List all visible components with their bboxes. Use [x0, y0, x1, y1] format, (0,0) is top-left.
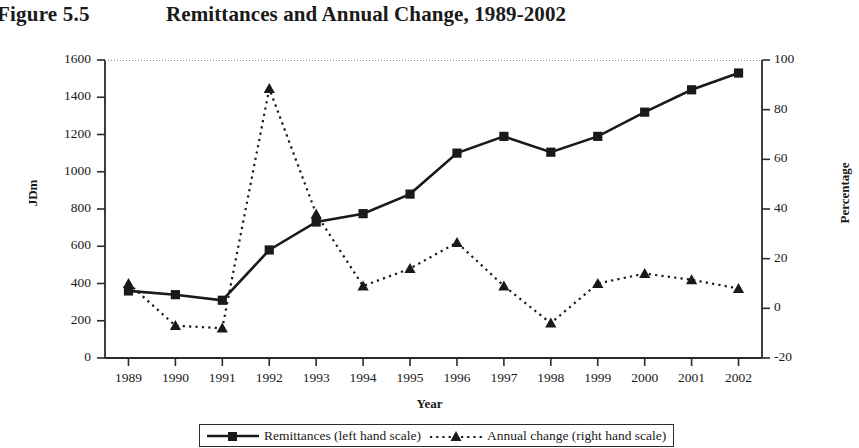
y-left-tick-label: 1000	[45, 163, 91, 179]
y-right-tick-label: -20	[774, 349, 820, 365]
y-left-tick-label: 0	[45, 349, 91, 365]
series-remittances	[124, 68, 743, 304]
figure-container: Figure 5.5 Remittances and Annual Change…	[0, 0, 859, 448]
data-point-marker	[404, 263, 415, 273]
axis-frame	[105, 60, 762, 358]
y-right-tick-label: 0	[774, 299, 820, 315]
data-point-marker	[312, 217, 321, 226]
x-tick-label: 2002	[711, 370, 767, 386]
series-line	[129, 73, 739, 300]
y-left-tick-label: 400	[45, 275, 91, 291]
data-point-marker	[734, 68, 743, 77]
data-point-marker	[265, 245, 274, 254]
data-point-marker	[640, 108, 649, 117]
series-annual-change	[123, 83, 744, 333]
data-point-marker	[264, 83, 275, 93]
y-right-tick-label: 20	[774, 250, 820, 266]
y-right-tick-label: 60	[774, 150, 820, 166]
y-right-tick-label: 40	[774, 200, 820, 216]
y-axis-left-title: JDm	[25, 153, 41, 233]
y-left-tick-label: 800	[45, 200, 91, 216]
y-axis-right-ticks	[762, 60, 770, 358]
y-left-tick-label: 600	[45, 237, 91, 253]
data-point-marker	[687, 85, 696, 94]
y-right-tick-label: 100	[774, 51, 820, 67]
data-point-marker	[451, 237, 462, 247]
legend-label-annual-change: Annual change (right hand scale)	[487, 429, 666, 443]
series-line	[129, 89, 739, 329]
data-point-marker	[733, 283, 744, 293]
data-point-marker	[124, 286, 133, 295]
square-marker-icon	[207, 430, 259, 442]
data-point-marker	[359, 209, 368, 218]
x-axis-title: Year	[0, 396, 859, 412]
legend-item-remittances: Remittances (left hand scale)	[207, 429, 421, 443]
x-axis-ticks	[128, 358, 738, 366]
data-point-marker	[546, 148, 555, 157]
chart-legend: Remittances (left hand scale) Annual cha…	[199, 424, 674, 447]
data-point-marker	[217, 323, 228, 333]
triangle-marker-icon	[430, 430, 482, 442]
data-point-marker	[592, 278, 603, 288]
y-axis-left-ticks	[97, 60, 105, 358]
data-point-marker	[593, 132, 602, 141]
data-point-marker	[639, 268, 650, 278]
data-point-marker	[171, 290, 180, 299]
y-left-tick-label: 1400	[45, 88, 91, 104]
data-point-marker	[405, 190, 414, 199]
y-left-tick-label: 200	[45, 312, 91, 328]
y-right-tick-label: 80	[774, 101, 820, 117]
data-point-marker	[499, 132, 508, 141]
data-point-marker	[311, 208, 322, 218]
y-left-tick-label: 1600	[45, 51, 91, 67]
y-left-tick-label: 1200	[45, 126, 91, 142]
data-point-marker	[452, 149, 461, 158]
legend-label-remittances: Remittances (left hand scale)	[264, 429, 421, 443]
legend-item-annual-change: Annual change (right hand scale)	[430, 429, 666, 443]
y-axis-right-title: Percentage	[837, 143, 853, 243]
data-point-marker	[218, 296, 227, 305]
data-point-marker	[170, 320, 181, 330]
